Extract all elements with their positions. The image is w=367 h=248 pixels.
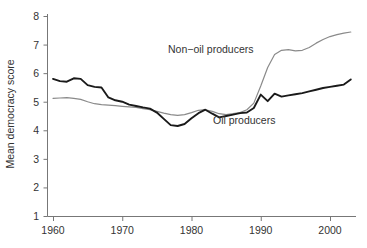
y-tick-label: 1 [33, 210, 39, 222]
democracy-score-line-chart: 87654321 19601970198019902000 Mean democ… [0, 0, 367, 248]
x-tick-label: 1960 [41, 224, 65, 236]
y-tick-label: 2 [33, 181, 39, 193]
y-tick-label: 4 [33, 124, 39, 136]
y-tick-label: 8 [33, 10, 39, 22]
y-tick-label: 5 [33, 96, 39, 108]
x-tick-label: 1990 [249, 224, 273, 236]
x-axis: 19601970198019902000 [41, 217, 356, 237]
x-tick-label: 1970 [111, 224, 135, 236]
chart-plot-area: 87654321 19601970198019902000 Mean democ… [0, 0, 367, 248]
x-tick-group: 19601970198019902000 [41, 217, 342, 237]
y-tick-label: 3 [33, 153, 39, 165]
y-tick-group: 87654321 [33, 10, 47, 222]
x-tick-label: 2000 [318, 224, 342, 236]
y-tick-label: 7 [33, 39, 39, 51]
y-axis: 87654321 [33, 10, 47, 222]
x-tick-label: 1980 [180, 224, 204, 236]
y-tick-label: 6 [33, 67, 39, 79]
series-label-non-oil-producers: Non−oil producers [168, 43, 254, 55]
series-label-oil-producers: Oil producers [213, 114, 275, 126]
series-line-oil-producers [53, 78, 351, 126]
y-axis-title: Mean democracy score [4, 59, 16, 168]
